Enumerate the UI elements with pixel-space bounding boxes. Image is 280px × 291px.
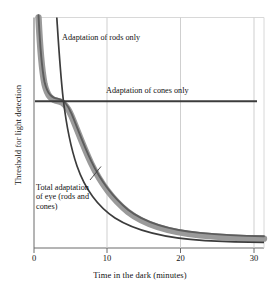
annotation-total-line-1: Total adaptation: [36, 183, 89, 192]
xtick-label-30: 30: [242, 253, 266, 263]
annotation-cones-only: Adaptation of cones only: [106, 86, 189, 96]
xtick-label-20: 20: [169, 253, 193, 263]
dark-adaptation-chart: 0 10 20 30 Time in the dark (minutes) Th…: [0, 0, 280, 291]
annotation-total-line-3: cones): [36, 202, 89, 211]
annotation-rods-only: Adaptation of rods only: [62, 33, 140, 43]
annotation-total-adaptation: Total adaptation of eye (rods and cones): [36, 183, 89, 211]
xtick-label-10: 10: [95, 253, 119, 263]
y-axis-title: Threshold for light detection: [13, 25, 23, 245]
annotation-total-line-2: of eye (rods and: [36, 192, 89, 201]
chart-plot-area: [0, 0, 280, 291]
x-axis-title: Time in the dark (minutes): [0, 270, 280, 280]
axis-ticks-x: [34, 248, 254, 253]
xtick-label-0: 0: [22, 253, 46, 263]
